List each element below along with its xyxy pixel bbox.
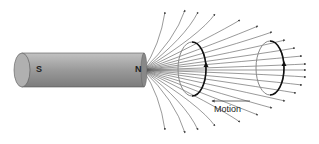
north-pole-label: N [135, 64, 142, 74]
wire-loop-near [178, 42, 209, 96]
bar-magnet [14, 53, 147, 87]
south-pole-label: S [36, 64, 42, 74]
magnet-field-diagram [0, 0, 319, 144]
field-lines [143, 10, 306, 133]
wire-loop-far [256, 41, 287, 95]
motion-label: Motion [214, 104, 241, 114]
